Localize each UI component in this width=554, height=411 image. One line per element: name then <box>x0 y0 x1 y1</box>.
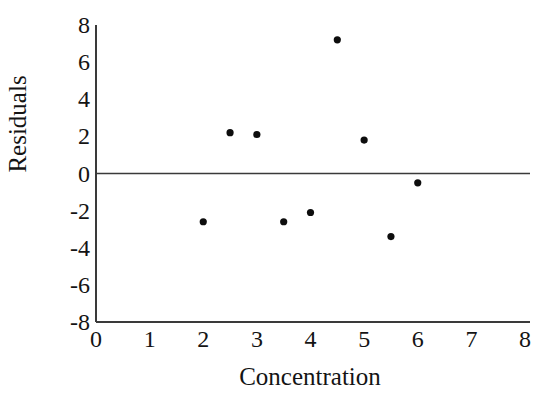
data-point <box>253 131 260 138</box>
x-tick-label: 7 <box>451 327 491 351</box>
data-point <box>200 218 207 225</box>
x-tick-label: 6 <box>398 327 438 351</box>
x-tick-label: 1 <box>130 327 170 351</box>
residuals-scatter-chart: Residuals 86420-2-4-6-8 012345678 Concen… <box>0 0 554 411</box>
axis-lines <box>96 25 530 322</box>
data-point <box>387 233 394 240</box>
x-axis-title: Concentration <box>95 363 525 391</box>
data-point <box>361 136 368 143</box>
x-tick-label: 3 <box>237 327 277 351</box>
x-tick-label: 0 <box>76 327 116 351</box>
x-tick-label: 4 <box>291 327 331 351</box>
x-tick-label: 5 <box>344 327 384 351</box>
data-point <box>414 179 421 186</box>
data-point <box>280 218 287 225</box>
data-point <box>307 209 314 216</box>
data-points <box>200 36 422 240</box>
x-tick-label: 8 <box>505 327 545 351</box>
data-point <box>334 36 341 43</box>
x-tick-label: 2 <box>183 327 223 351</box>
data-point <box>226 129 233 136</box>
